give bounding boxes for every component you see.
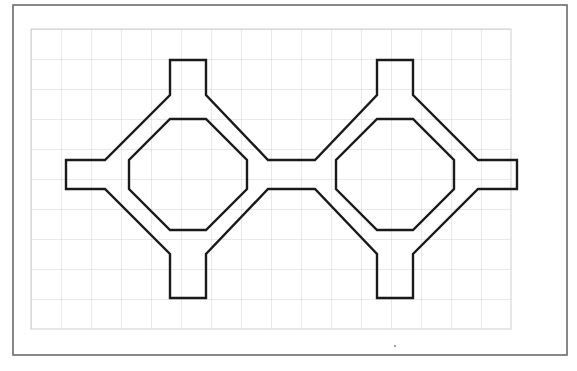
drawing-frame <box>0 0 577 371</box>
graph-paper-grid <box>31 29 511 329</box>
geometric-drawing-canvas <box>0 0 577 371</box>
grid-fill <box>31 29 511 329</box>
scan-speck <box>394 345 396 347</box>
screenshot-root: Geometric Gasket Drawing Two mirrored di… <box>0 0 577 371</box>
